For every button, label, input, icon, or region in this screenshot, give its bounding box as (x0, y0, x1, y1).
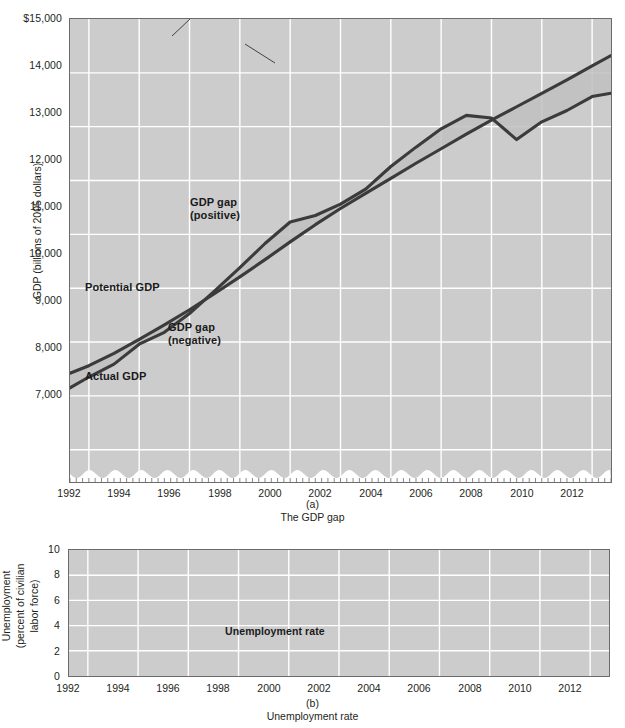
figure-gdp-gap-and-unemployment: $15,000 14,000 13,000 12,000 11,000 10,0… (0, 0, 625, 728)
panel-a-ytick-15000: $15,000 (2, 12, 62, 24)
panel-b-xtick-2004: 2004 (347, 682, 391, 694)
panel-b-xtick-2008: 2008 (448, 682, 492, 694)
annotation-unemployment-rate-line1: Unemployment rate (225, 625, 325, 638)
panel-b-xtick-1992: 1992 (46, 682, 90, 694)
panel-b-xtick-2012: 2012 (548, 682, 592, 694)
panel-b-xtick-2006: 2006 (397, 682, 441, 694)
panel-b-xtick-2000: 2000 (247, 682, 291, 694)
annotation-unemployment-rate: Unemployment rate (225, 625, 325, 638)
panel-b-y-axis-title: Unemployment (percent of civilian labor … (0, 541, 41, 671)
panel-b-y-axis-title-line2: (percent of civilian (13, 541, 27, 671)
panel-b-y-axis-title-line3: labor force) (27, 541, 41, 671)
panel-a-caption-letter: (a) (0, 498, 625, 511)
annotation-actual-gdp-line1: Actual GDP (85, 370, 147, 383)
annotation-actual-gdp: Actual GDP (85, 370, 147, 383)
panel-a-svg (70, 19, 611, 482)
panel-b-ytick-0: 0 (2, 670, 60, 682)
panel-b-xtick-1998: 1998 (196, 682, 240, 694)
panel-b-xtick-2010: 2010 (498, 682, 542, 694)
panel-b-caption: (b) Unemployment rate (0, 697, 625, 723)
panel-b-plot-area (68, 549, 610, 677)
panel-b-svg (69, 550, 609, 676)
annotation-gdp-gap-positive-line1: GDP gap (190, 196, 240, 209)
annotation-gdp-gap-negative-line2: (negative) (168, 334, 221, 347)
panel-b-caption-letter: (b) (0, 697, 625, 710)
panel-a-ytick-14000: 14,000 (2, 59, 62, 71)
annotation-gdp-gap-negative-line1: GDP gap (168, 321, 221, 334)
panel-a-plot-area (69, 18, 612, 483)
panel-a-caption-title: The GDP gap (0, 511, 625, 524)
annotation-potential-gdp: Potential GDP (85, 281, 160, 294)
panel-b-y-axis-title-line1: Unemployment (0, 541, 13, 671)
panel-b-caption-title: Unemployment rate (0, 710, 625, 723)
panel-b-xtick-1994: 1994 (96, 682, 140, 694)
panel-b-xtick-2002: 2002 (297, 682, 341, 694)
panel-a-caption: (a) The GDP gap (0, 498, 625, 524)
annotation-gdp-gap-negative: GDP gap (negative) (168, 321, 221, 347)
annotation-gdp-gap-positive-line2: (positive) (190, 209, 240, 222)
annotation-gdp-gap-positive: GDP gap (positive) (190, 196, 240, 222)
panel-a-y-axis-title: GDP (billions of 2005 dollars) (31, 116, 43, 346)
annotation-potential-gdp-line1: Potential GDP (85, 281, 160, 294)
panel-a-ytick-7000: 7,000 (2, 388, 62, 400)
panel-b-xtick-1996: 1996 (146, 682, 190, 694)
